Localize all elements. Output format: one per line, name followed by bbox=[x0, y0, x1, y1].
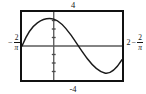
right-fraction-numerator: 2 bbox=[137, 34, 143, 42]
graph-figure: 4 − 2 π bbox=[0, 0, 146, 94]
left-fraction-numerator: 2 bbox=[14, 34, 20, 42]
right-expression: 2 − 2 π bbox=[126, 34, 144, 52]
axis-label-right: 2 − 2 π bbox=[126, 34, 144, 52]
left-minus-sign: − bbox=[7, 39, 13, 47]
calculator-viewport bbox=[20, 10, 124, 82]
right-minus-sign: − bbox=[131, 39, 137, 47]
right-fraction: 2 π bbox=[137, 34, 143, 52]
axis-label-left: − 2 π bbox=[1, 34, 20, 52]
axis-label-bottom: -4 bbox=[0, 85, 146, 94]
left-fraction-denominator: π bbox=[14, 44, 20, 52]
plot-area bbox=[22, 12, 122, 80]
left-expression: − 2 π bbox=[7, 34, 20, 52]
right-fraction-denominator: π bbox=[137, 44, 143, 52]
axis-label-top: 4 bbox=[0, 1, 146, 10]
left-fraction: 2 π bbox=[14, 34, 20, 52]
